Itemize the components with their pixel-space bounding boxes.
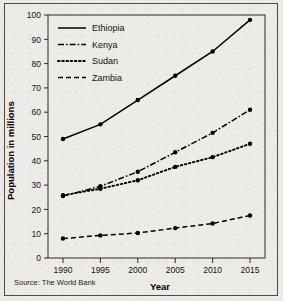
y-tick-label: 30 <box>32 180 42 190</box>
y-tick-label: 100 <box>27 10 41 20</box>
data-point-zambia-1990 <box>61 236 65 240</box>
data-point-sudan-2005 <box>173 165 177 169</box>
y-tick-label: 60 <box>32 107 42 117</box>
figure-container: 0102030405060708090100 19901995200020052… <box>0 0 283 301</box>
x-tick-label: 2000 <box>128 265 147 275</box>
x-axis-title: Year <box>150 281 170 292</box>
data-point-ethiopia-2000 <box>136 98 140 102</box>
data-point-ethiopia-1990 <box>61 137 65 141</box>
x-tick-label: 2015 <box>241 265 260 275</box>
legend-label-zambia: Zambia <box>92 73 122 83</box>
y-tick-label: 90 <box>32 35 42 45</box>
legend-label-kenya: Kenya <box>92 40 118 50</box>
y-tick-label: 10 <box>32 229 42 239</box>
data-point-ethiopia-2015 <box>248 18 252 22</box>
y-tick-label: 0 <box>36 253 41 263</box>
data-point-sudan-2015 <box>248 142 252 146</box>
data-point-sudan-2000 <box>136 178 140 182</box>
data-point-ethiopia-1995 <box>98 122 102 126</box>
data-point-zambia-2010 <box>210 221 214 225</box>
y-tick-label: 20 <box>32 205 42 215</box>
data-point-sudan-1995 <box>98 187 102 191</box>
y-tick-label: 80 <box>32 59 42 69</box>
y-tick-label: 40 <box>32 156 42 166</box>
x-tick-label: 2010 <box>203 265 222 275</box>
x-tick-label: 2005 <box>166 265 185 275</box>
data-point-sudan-2010 <box>210 155 214 159</box>
data-point-kenya-2010 <box>210 131 214 135</box>
source-note: Source: The World Bank <box>14 278 96 287</box>
series-group <box>61 18 252 241</box>
data-point-sudan-1990 <box>61 193 65 197</box>
data-point-kenya-2015 <box>248 108 252 112</box>
data-point-kenya-2000 <box>136 170 140 174</box>
line-chart: 0102030405060708090100 19901995200020052… <box>0 0 283 301</box>
y-axis-ticks: 0102030405060708090100 <box>27 10 48 263</box>
data-point-zambia-2015 <box>248 213 252 217</box>
x-tick-label: 1995 <box>91 265 110 275</box>
data-point-zambia-2005 <box>173 226 177 230</box>
data-point-zambia-1995 <box>98 233 102 237</box>
x-tick-label: 1990 <box>54 265 73 275</box>
y-axis-title: Population in millions <box>5 101 16 200</box>
series-line-zambia <box>63 215 250 238</box>
y-tick-label: 50 <box>32 132 42 142</box>
x-axis-ticks: 199019952000200520102015 <box>54 258 260 275</box>
legend-label-sudan: Sudan <box>92 56 118 66</box>
data-point-kenya-2005 <box>173 150 177 154</box>
chart-legend: EthiopiaKenyaSudanZambia <box>58 23 125 83</box>
data-point-ethiopia-2010 <box>210 49 214 53</box>
data-point-zambia-2000 <box>136 231 140 235</box>
y-tick-label: 70 <box>32 83 42 93</box>
plot-frame <box>48 15 265 258</box>
series-line-sudan <box>63 144 250 196</box>
legend-label-ethiopia: Ethiopia <box>92 23 125 33</box>
data-point-ethiopia-2005 <box>173 74 177 78</box>
